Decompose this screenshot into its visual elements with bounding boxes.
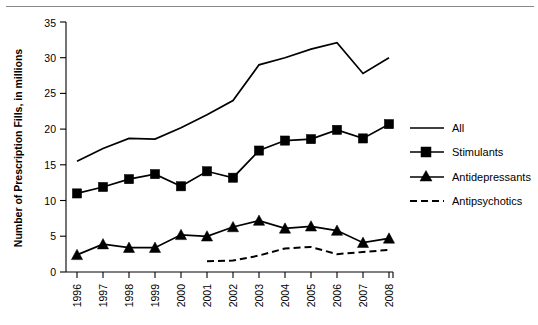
data-point-marker-stimulants (228, 173, 237, 182)
series-all (77, 43, 389, 162)
x-tick-label: 2008 (383, 284, 395, 308)
x-tick-label: 1997 (97, 284, 109, 308)
series-line-antipsychotics (207, 247, 389, 261)
legend-item-antidepressants[interactable]: Antidepressants (410, 171, 531, 184)
chart-figure: Number of Prescription Fills, in million… (0, 0, 538, 325)
legend-swatch-triangle-marker (420, 171, 432, 182)
y-tick-label: 15 (44, 159, 56, 171)
y-tick-label: 30 (44, 52, 56, 64)
y-tick-label: 25 (44, 87, 56, 99)
y-axis (60, 22, 66, 272)
data-point-marker-stimulants (72, 189, 81, 198)
x-axis (66, 272, 393, 278)
y-tick-labels: 35 30 25 20 15 10 5 0 (44, 17, 56, 278)
series-antipsychotics (207, 247, 389, 261)
chart-legend: All Stimulants Antidepressants Antipsych… (410, 122, 531, 207)
series-line-all (77, 43, 389, 162)
x-tick-labels: 1996 1997 1998 1999 2000 2001 2002 2003 … (71, 284, 395, 308)
y-tick-label: 10 (44, 195, 56, 207)
legend-swatch-square-marker (421, 147, 431, 157)
data-point-marker-antidepressants (253, 215, 264, 225)
x-tick-label: 1999 (149, 284, 161, 308)
x-tick-label: 2005 (305, 284, 317, 308)
x-tick-label: 2001 (201, 284, 213, 308)
x-tick-label: 2002 (227, 284, 239, 308)
data-point-marker-stimulants (254, 146, 263, 155)
legend-label: Antidepressants (452, 171, 531, 183)
data-series-layer (71, 43, 394, 262)
data-point-marker-stimulants (358, 134, 367, 143)
y-tick-label: 0 (50, 266, 56, 278)
y-tick-label: 5 (50, 230, 56, 242)
x-tick-label: 2003 (253, 284, 265, 308)
data-point-marker-antidepressants (71, 249, 82, 259)
data-point-marker-antidepressants (97, 239, 108, 249)
data-point-marker-stimulants (98, 182, 107, 191)
legend-label: All (452, 122, 464, 134)
legend-item-all[interactable]: All (410, 122, 464, 134)
x-tick-label: 2007 (357, 284, 369, 308)
x-tick-label: 2006 (331, 284, 343, 308)
series-stimulants (72, 120, 393, 198)
y-axis-title: Number of Prescription Fills, in million… (12, 49, 24, 248)
line-chart-plot: Number of Prescription Fills, in million… (0, 0, 538, 325)
legend-item-antipsychotics[interactable]: Antipsychotics (410, 195, 523, 207)
data-point-marker-stimulants (332, 125, 341, 134)
data-point-marker-antidepressants (383, 233, 394, 243)
legend-label: Antipsychotics (452, 195, 523, 207)
data-point-marker-stimulants (202, 167, 211, 176)
y-tick-label: 20 (44, 123, 56, 135)
x-tick-label: 1998 (123, 284, 135, 308)
legend-item-stimulants[interactable]: Stimulants (410, 146, 504, 158)
x-tick-label: 2004 (279, 284, 291, 308)
legend-label: Stimulants (452, 146, 504, 158)
data-point-marker-stimulants (150, 170, 159, 179)
data-point-marker-stimulants (280, 136, 289, 145)
data-point-marker-stimulants (124, 175, 133, 184)
series-line-stimulants (77, 124, 389, 193)
data-point-marker-stimulants (176, 182, 185, 191)
data-point-marker-stimulants (306, 135, 315, 144)
x-tick-label: 2000 (175, 284, 187, 308)
x-tick-label: 1996 (71, 284, 83, 308)
y-tick-label: 35 (44, 17, 56, 29)
data-point-marker-stimulants (384, 120, 393, 129)
series-antidepressants (71, 215, 394, 260)
